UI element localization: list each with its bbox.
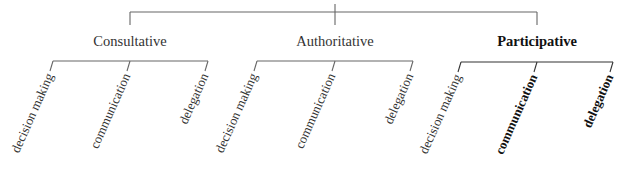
group-label-consultative: Consultative <box>93 33 166 50</box>
group-label-participative: Participative <box>497 33 577 50</box>
group-label-authoritative: Authoritative <box>296 33 373 50</box>
leadership-style-tree-diagram: Consultative Authoritative Participative… <box>0 0 628 183</box>
